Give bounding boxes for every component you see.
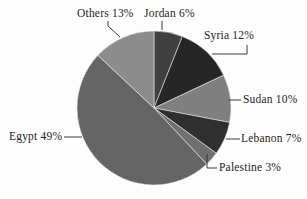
slices-group	[77, 31, 231, 185]
pie-label-palestine: Palestine 3%	[219, 161, 281, 174]
pie-label-sudan: Sudan 10%	[243, 93, 298, 106]
leader-line-syria	[212, 45, 247, 54]
pie-label-lebanon: Lebanon 7%	[241, 132, 301, 145]
pie-label-syria: Syria 12%	[204, 29, 254, 42]
pie-label-others: Others 13%	[77, 7, 134, 20]
pie-label-egypt: Egypt 49%	[9, 130, 62, 143]
leader-line-others	[108, 21, 120, 37]
pie-chart-figure: Others 13% Jordan 6% Syria 12% Sudan 10%…	[0, 0, 307, 199]
pie-label-jordan: Jordan 6%	[144, 7, 195, 20]
